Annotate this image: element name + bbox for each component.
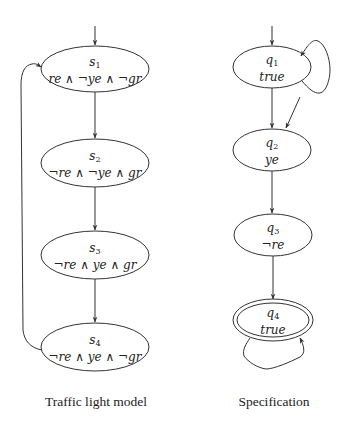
state-index: 2 [96, 155, 101, 164]
state-index: 3 [274, 227, 279, 236]
state-q4-label: q4 true [260, 307, 285, 336]
state-q3-label: q3 ¬re [262, 222, 285, 251]
state-index: 2 [273, 142, 278, 151]
state-index: 3 [96, 247, 101, 256]
state-s4-label: s4 ¬re ∧ ye ∧ ¬gr [48, 334, 141, 363]
state-proposition: ¬re ∧ ye ∧ gr [53, 259, 136, 271]
state-index: 4 [96, 339, 101, 348]
edge-s4-s1 [21, 64, 42, 350]
state-proposition: ¬re [262, 239, 285, 251]
state-proposition: re ∧ ¬ye ∧ ¬gr [48, 73, 141, 85]
state-proposition: ¬re ∧ ye ∧ ¬gr [48, 351, 141, 363]
state-name: q [267, 306, 275, 320]
state-index: 1 [273, 59, 278, 68]
state-s1-label: s1 re ∧ ¬ye ∧ ¬gr [48, 56, 141, 85]
state-proposition: ¬re ∧ ¬ye ∧ gr [48, 167, 141, 179]
edge-q1-q2-diagonal [286, 97, 300, 128]
state-s3-label: s3 ¬re ∧ ye ∧ gr [53, 242, 136, 271]
traffic-model-caption: Traffic light model [45, 394, 147, 410]
state-proposition: ye [265, 154, 279, 166]
state-index: 4 [274, 312, 279, 321]
state-index: 1 [96, 61, 101, 70]
state-proposition: true [259, 71, 284, 83]
state-q1-label: q1 true [259, 54, 284, 83]
state-name: q [267, 221, 275, 235]
self-loop-q4 [243, 338, 303, 369]
state-proposition: true [260, 324, 285, 336]
specification-caption: Specification [238, 394, 309, 410]
state-s2-label: s2 ¬re ∧ ¬ye ∧ gr [48, 150, 141, 179]
state-q2-label: q2 ye [265, 137, 279, 166]
state-name: q [266, 53, 274, 67]
self-loop-q1 [301, 40, 330, 93]
